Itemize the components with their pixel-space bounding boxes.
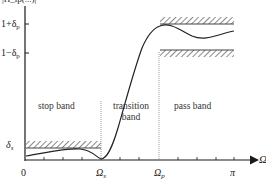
tick-label-delta-s: δs [6, 140, 13, 153]
tick-label-1-plus-delta-p: 1+δp [1, 19, 20, 32]
stop-band-label: stop band [38, 101, 75, 112]
tick-label-pi: π [230, 168, 235, 178]
tick-label-omega-p: Ωp [154, 168, 165, 181]
transition-band-label: transition band [104, 101, 158, 123]
pass-band-label: pass band [174, 101, 211, 112]
x-axis-arrow-icon [250, 156, 259, 165]
passband-lower-tolerance [160, 50, 234, 57]
magnitude-response-curve [26, 25, 234, 159]
tick-label-zero: 0 [21, 168, 26, 178]
tick-label-1-minus-delta-p: 1−δp [1, 48, 20, 61]
x-axis-label: Ω [259, 154, 266, 164]
filter-diagram [0, 0, 266, 183]
passband-upper-tolerance [160, 17, 234, 24]
stopband-tolerance [26, 141, 101, 148]
y-axis-label: |H_lp(...)| [2, 0, 36, 4]
tick-label-omega-s: Ωs [96, 168, 106, 181]
